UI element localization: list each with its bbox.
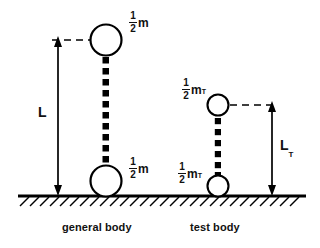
mass-symbol: m — [187, 168, 198, 180]
mass-subscript: T — [202, 88, 206, 95]
test-body-bottom-mass-label: 1 2 mT — [178, 162, 202, 185]
general-body-top-mass-circle — [91, 25, 122, 56]
general-body-rod — [103, 57, 110, 163]
test-body-top-mass-circle — [208, 95, 229, 116]
fraction-one-half: 1 2 — [178, 162, 186, 185]
test-body-group — [208, 95, 279, 197]
test-body-bottom-mass-circle — [208, 176, 229, 197]
diagram-canvas — [0, 0, 320, 248]
fraction-one-half: 1 2 — [182, 78, 190, 101]
general-body-bottom-mass-circle — [91, 166, 122, 197]
general-body-dimension-arrow — [54, 36, 62, 196]
test-body-caption: test body — [190, 222, 240, 233]
mass-symbol: m — [191, 84, 202, 96]
test-body-rod — [215, 118, 221, 178]
general-body-group — [52, 25, 122, 197]
fraction-one-half: 1 2 — [129, 157, 137, 180]
general-body-caption: general body — [62, 222, 132, 233]
ground-hatching — [20, 197, 299, 206]
length-symbol: L — [38, 104, 47, 120]
general-body-dimension-label: L — [38, 105, 47, 119]
mass-symbol: m — [138, 163, 149, 175]
fraction-one-half: 1 2 — [129, 11, 137, 34]
length-subscript: T — [289, 150, 294, 159]
mass-subscript: T — [198, 172, 202, 179]
test-body-top-mass-label: 1 2 mT — [182, 78, 206, 101]
general-body-bottom-mass-label: 1 2 m — [129, 157, 149, 180]
test-body-dimension-label: LT — [280, 138, 293, 156]
length-symbol: L — [280, 137, 289, 153]
test-body-dimension-arrow — [268, 101, 276, 196]
mass-symbol: m — [138, 17, 149, 29]
physics-diagram: 1 2 m 1 2 m L 1 2 mT 1 2 mT — [0, 0, 320, 248]
general-body-top-mass-label: 1 2 m — [129, 11, 149, 34]
ground-group — [18, 196, 306, 206]
